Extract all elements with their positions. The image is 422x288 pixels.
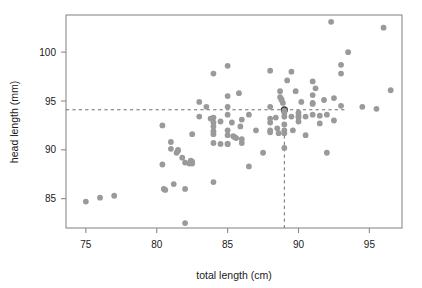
data-point <box>267 129 273 135</box>
data-point <box>274 125 280 131</box>
data-point <box>310 101 316 107</box>
data-point <box>189 131 195 137</box>
data-point <box>203 104 209 110</box>
data-point <box>237 123 243 129</box>
data-point <box>317 113 323 119</box>
x-tick-label: 90 <box>293 239 305 250</box>
data-point <box>321 97 327 103</box>
data-point <box>239 117 245 123</box>
data-point <box>267 104 273 110</box>
data-point <box>225 63 231 69</box>
data-point <box>277 88 283 94</box>
data-point <box>293 88 299 94</box>
data-point <box>338 71 344 77</box>
x-axis-tick-labels: 7580859095 <box>80 239 375 250</box>
data-point <box>298 99 304 105</box>
data-point <box>388 87 394 93</box>
data-point <box>196 114 202 120</box>
data-point <box>211 131 217 137</box>
data-point <box>381 25 387 31</box>
data-point <box>225 93 231 99</box>
x-tick-label: 75 <box>80 239 92 250</box>
data-point <box>374 106 380 112</box>
data-point <box>260 150 266 156</box>
data-point <box>253 127 259 133</box>
data-point <box>111 193 117 199</box>
data-point <box>225 104 231 110</box>
data-point <box>289 114 295 120</box>
data-point <box>317 121 323 127</box>
data-point <box>280 100 286 106</box>
y-tick-label: 95 <box>45 96 57 107</box>
reference-lines <box>66 110 346 228</box>
data-point <box>246 164 252 170</box>
data-point <box>168 139 174 145</box>
data-point <box>267 68 273 74</box>
data-point <box>331 118 337 124</box>
y-tick-label: 100 <box>39 47 56 58</box>
data-point <box>171 181 177 187</box>
scatter-plot-figure: 7580859095 859095100 total length (cm) h… <box>0 0 422 288</box>
data-point <box>338 62 344 68</box>
data-point <box>239 140 245 146</box>
data-point <box>328 19 334 25</box>
data-point <box>290 127 296 133</box>
data-point <box>211 179 217 185</box>
data-point <box>160 162 166 168</box>
data-point <box>281 114 287 120</box>
data-point <box>281 130 287 136</box>
data-point <box>225 132 231 138</box>
data-point <box>189 159 195 165</box>
data-point <box>331 95 337 101</box>
data-point <box>273 115 279 121</box>
data-point <box>310 79 316 85</box>
data-point <box>310 112 316 118</box>
data-point <box>233 135 239 141</box>
data-point <box>97 195 103 201</box>
data-point <box>313 85 319 91</box>
data-point <box>281 122 287 128</box>
data-point <box>276 130 282 136</box>
data-point <box>179 155 185 161</box>
chart-canvas: 7580859095 859095100 total length (cm) h… <box>0 0 422 288</box>
data-point <box>229 120 235 126</box>
data-point <box>225 141 231 147</box>
data-point <box>196 99 202 105</box>
data-point <box>303 114 309 120</box>
x-tick-label: 85 <box>222 239 234 250</box>
data-point <box>284 78 290 84</box>
data-point <box>359 104 365 110</box>
data-point <box>182 186 188 192</box>
data-point <box>218 119 224 125</box>
data-point <box>83 199 89 205</box>
data-point <box>211 71 217 77</box>
data-point <box>338 103 344 109</box>
data-point <box>218 141 224 147</box>
data-point <box>182 220 188 226</box>
data-point <box>246 112 252 118</box>
data-point <box>310 92 316 98</box>
data-point <box>168 146 174 152</box>
y-axis-ticks <box>61 52 66 199</box>
data-point <box>303 132 309 138</box>
data-point <box>225 112 231 118</box>
data-points <box>83 19 394 226</box>
data-point <box>160 123 166 129</box>
x-axis-ticks <box>86 228 370 233</box>
x-axis-title: total length (cm) <box>196 269 271 281</box>
y-tick-label: 90 <box>45 144 57 155</box>
y-axis-title: head length (mm) <box>8 81 20 163</box>
data-point <box>236 90 242 96</box>
y-tick-label: 85 <box>45 193 57 204</box>
data-point <box>281 145 287 151</box>
data-point <box>296 119 302 125</box>
y-axis-tick-labels: 859095100 <box>39 47 56 205</box>
data-point <box>267 120 273 126</box>
data-point <box>324 112 330 118</box>
data-point <box>324 150 330 156</box>
data-point <box>211 140 217 146</box>
x-tick-label: 95 <box>364 239 376 250</box>
data-point <box>289 69 295 75</box>
x-tick-label: 80 <box>151 239 163 250</box>
data-point <box>345 49 351 55</box>
